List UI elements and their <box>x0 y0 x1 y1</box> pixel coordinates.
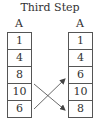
swap-arrow-down <box>34 84 65 110</box>
swap-arrows-icon <box>0 0 100 127</box>
swap-arrow-up <box>34 79 65 109</box>
